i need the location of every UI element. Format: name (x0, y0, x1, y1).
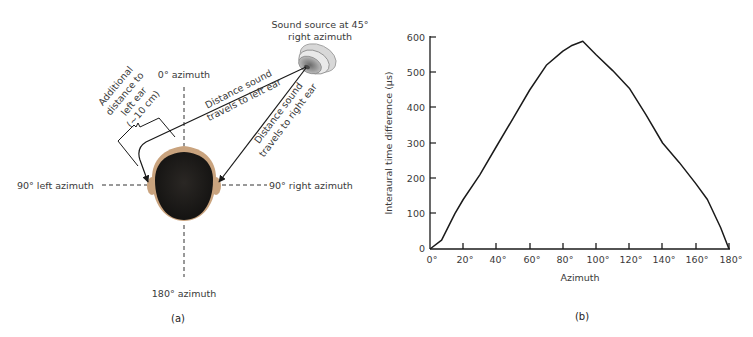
x-tick-label-120: 120° (620, 254, 643, 265)
y-tick-label-600: 600 (407, 32, 425, 43)
x-axis-label: Azimuth (560, 272, 599, 283)
back-azimuth-label: 180° azimuth (152, 288, 216, 299)
panel-b-chart: 0 100 200 300 400 500 600 0° 20° 40° 60°… (383, 32, 742, 322)
panel-a-diagram: Sound source at 45° right azimuth 0° azi… (17, 19, 368, 324)
head-top-view-icon (147, 146, 221, 221)
figure-canvas: Sound source at 45° right azimuth 0° azi… (0, 0, 753, 337)
y-tick-label-200: 200 (407, 173, 425, 184)
x-tick-label-60: 60° (524, 254, 541, 265)
x-tick-label-40: 40° (490, 254, 507, 265)
y-ticks (430, 37, 436, 213)
itd-curve (430, 41, 729, 249)
x-tick-label-180: 180° (720, 254, 743, 265)
x-tick-label-80: 80° (557, 254, 574, 265)
x-tick-label-100: 100° (587, 254, 610, 265)
left-azimuth-label: 90° left azimuth (17, 180, 94, 191)
x-tick-label-0: 0° (427, 254, 438, 265)
right-azimuth-label: 90° right azimuth (269, 180, 353, 191)
y-tick-label-300: 300 (407, 138, 425, 149)
y-axis-label: Interaural time difference (µs) (383, 71, 394, 214)
source-label-line2: right azimuth (288, 31, 352, 42)
x-tick-label-160: 160° (686, 254, 709, 265)
y-tick-label-500: 500 (407, 67, 425, 78)
panel-b-caption: (b) (575, 311, 589, 322)
y-tick-label-400: 400 (407, 102, 425, 113)
zero-azimuth-label: 0° azimuth (158, 69, 210, 80)
x-tick-label-20: 20° (457, 254, 474, 265)
y-tick-label-100: 100 (407, 208, 425, 219)
source-label-line1: Sound source at 45° (272, 19, 369, 30)
x-ticks (463, 243, 729, 249)
x-tick-label-140: 140° (653, 254, 676, 265)
y-tick-label-0: 0 (419, 243, 425, 254)
panel-a-caption: (a) (171, 313, 185, 324)
